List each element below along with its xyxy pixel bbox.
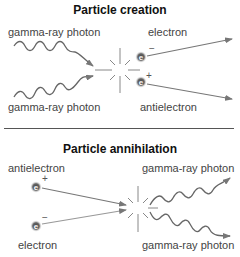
annihilation-photon-top-wave	[150, 178, 230, 205]
creation-antielectron-arrow	[147, 84, 232, 99]
creation-photon-top-wave	[14, 42, 93, 67]
annihilation-antielectron-arrow	[42, 188, 126, 205]
annihilation-electron-charge: −	[42, 212, 48, 223]
svg-text:e: e	[34, 183, 39, 192]
annihilation-burst-icon	[128, 186, 158, 232]
diagram-graphics: e − e + e + e −	[0, 0, 240, 257]
creation-burst-icon	[95, 48, 140, 93]
creation-photon-bottom-wave	[14, 76, 93, 99]
annihilation-antielectron-charge: +	[42, 173, 48, 184]
creation-electron-charge: −	[149, 43, 155, 54]
svg-text:e: e	[139, 78, 144, 87]
creation-antielectron-charge: +	[146, 70, 152, 81]
svg-text:e: e	[34, 222, 39, 231]
svg-text:e: e	[139, 53, 144, 62]
creation-electron-arrow	[147, 39, 232, 56]
annihilation-photon-bottom-wave	[150, 212, 230, 236]
annihilation-electron-arrow	[42, 210, 126, 224]
